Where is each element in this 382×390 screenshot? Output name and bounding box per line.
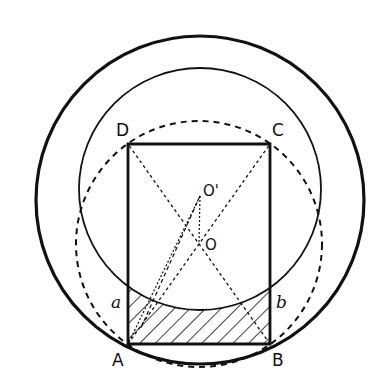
label-b: B (272, 350, 284, 370)
geometry-diagram: D C A B O' O a b (0, 0, 382, 390)
label-small-a: a (111, 292, 121, 312)
label-a: A (112, 350, 124, 370)
label-d: D (116, 120, 129, 140)
label-o: O (205, 236, 217, 254)
label-o-prime: O' (203, 182, 219, 200)
label-small-b: b (276, 292, 287, 312)
label-c: C (272, 120, 284, 140)
